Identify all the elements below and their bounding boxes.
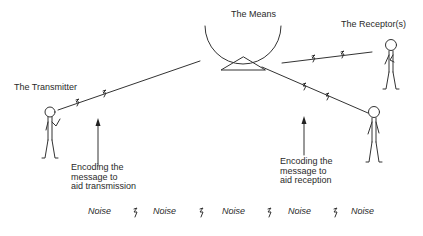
annotation-line: aid reception — [280, 176, 333, 186]
noise-squiggle-icon — [76, 99, 79, 106]
transmitter-label: The Transmitter — [14, 82, 77, 92]
arrow-head-icon — [302, 116, 307, 124]
noise-label: Noise — [288, 206, 311, 216]
noise-squiggle-icon — [312, 55, 315, 62]
transmission-line — [58, 61, 200, 110]
noise-squiggle-icon — [103, 90, 106, 97]
diagram-canvas — [0, 0, 423, 236]
receptor-figure-icon — [366, 107, 382, 163]
means-dish-icon — [205, 26, 281, 64]
receptor-figure-icon — [383, 40, 399, 90]
annotation-line: aid transmission — [71, 182, 136, 192]
arrow-head-icon — [96, 118, 101, 126]
noise-label: Noise — [153, 206, 176, 216]
means-label: The Means — [231, 9, 276, 19]
reception-line-upper — [282, 52, 372, 63]
noise-squiggle-icon — [303, 83, 306, 90]
reception-line-lower — [262, 67, 368, 113]
noise-squiggle-icon — [341, 51, 344, 58]
encoding-transmission-annotation: Encoding the message to aid transmission — [71, 163, 136, 192]
receptors-label: The Receptor(s) — [341, 19, 406, 29]
encoding-reception-annotation: Encoding the message to aid reception — [280, 157, 333, 186]
noise-row: Noise Noise Noise Noise Noise — [88, 206, 398, 220]
noise-squiggle-icon — [326, 93, 329, 100]
transmitter-figure-icon — [42, 107, 60, 158]
noise-label: Noise — [88, 206, 111, 216]
noise-label: Noise — [351, 206, 374, 216]
noise-label: Noise — [222, 206, 245, 216]
